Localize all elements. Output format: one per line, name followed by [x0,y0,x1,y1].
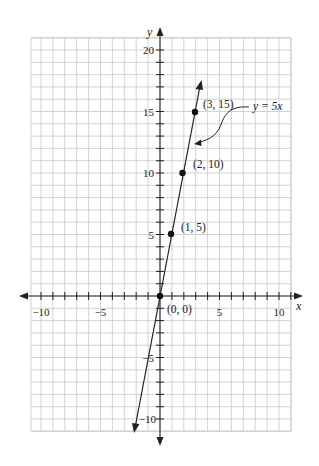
y-axis-label: y [146,25,153,39]
point-2-10 [179,170,185,176]
point-label: (0, 0) [167,303,192,316]
x-tick-label: 10 [274,306,286,318]
y-axis-bottom-arrow-icon [157,437,164,446]
point-3-15 [192,109,198,115]
point-label: (2, 10) [193,158,224,171]
point-1-5 [168,231,174,237]
line-y-equals-5x [135,86,200,428]
x-tick-label: −5 [95,306,107,318]
annotation-arrowhead-icon [194,140,202,147]
y-tick-label: −10 [139,413,157,425]
x-tick-label: 5 [217,306,223,318]
y-tick-label: 15 [143,106,155,118]
y-tick-label: 10 [143,167,155,179]
equation-label: y = 5x [252,100,283,113]
x-tick-label: −10 [32,306,50,318]
annotation-arrow [197,107,249,143]
x-axis-label: x [295,299,302,313]
point-label: (3, 15) [203,98,234,111]
coordinate-plane: x y −10 −5 5 10 20 15 10 5 −5 −10 (0, 0)… [0,0,319,466]
point-0-0 [157,293,163,299]
y-tick-label: 5 [149,229,155,241]
y-axis-top-arrow-icon [157,27,164,36]
line-top-arrow-icon [196,80,204,90]
point-label: (1, 5) [181,221,206,234]
y-tick-label: 20 [143,44,155,56]
x-axis-left-arrow-icon [19,293,28,300]
